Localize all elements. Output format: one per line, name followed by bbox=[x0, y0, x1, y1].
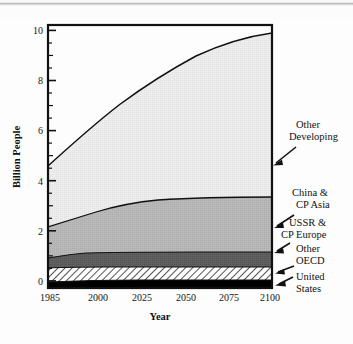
x-axis-title: Year bbox=[150, 311, 171, 322]
y-tick-label: 4 bbox=[38, 176, 43, 187]
area-bands bbox=[48, 33, 272, 288]
y-tick-label: 6 bbox=[38, 125, 43, 136]
x-tick-label: 2025 bbox=[132, 292, 152, 303]
callout-label-other-developing-line2: Developing bbox=[289, 131, 339, 142]
callout-label-united-states: United bbox=[296, 271, 325, 282]
callout-arrow-other-developing bbox=[276, 147, 296, 163]
callout-label-other-oecd: Other bbox=[296, 243, 320, 254]
callout-arrow-ussr-cp-europe bbox=[277, 243, 290, 251]
stacked-area-chart: 10 8 6 4 2 0 Billion People 1985 2000 20… bbox=[0, 0, 353, 344]
callout-label-united-states-line2: States bbox=[296, 283, 321, 294]
y-axis-title: Billion People bbox=[11, 126, 22, 188]
y-tick-label: 0 bbox=[38, 276, 43, 287]
x-tick-label: 2000 bbox=[88, 292, 108, 303]
x-tick-label: 1985 bbox=[40, 292, 60, 303]
callout-label-other-developing: Other bbox=[296, 119, 320, 130]
callout-arrowhead-china-cp-asia bbox=[274, 223, 284, 229]
callout-arrowhead-ussr-cp-europe bbox=[274, 248, 284, 254]
callout-arrowhead-other-oecd bbox=[275, 269, 285, 275]
x-tick-label: 2075 bbox=[219, 292, 239, 303]
callout-arrowhead-united-states bbox=[275, 281, 286, 287]
callout-label-china-cp-asia: China & bbox=[292, 187, 328, 198]
x-tick-label: 2050 bbox=[176, 292, 196, 303]
y-tick-label: 2 bbox=[38, 226, 43, 237]
y-tick-label: 8 bbox=[38, 75, 43, 86]
figure-container: 10 8 6 4 2 0 Billion People 1985 2000 20… bbox=[0, 0, 353, 344]
x-tick-label: 2100 bbox=[260, 292, 280, 303]
y-tick-label: 10 bbox=[33, 25, 43, 36]
callout-label-ussr-cp-europe-line2: CP Europe bbox=[281, 229, 327, 240]
callout-label-other-oecd-line2: OECD bbox=[296, 255, 325, 266]
callout-label-china-cp-asia-line2: CP Asia bbox=[296, 199, 330, 210]
callout-label-ussr-cp-europe: USSR & bbox=[289, 217, 326, 228]
